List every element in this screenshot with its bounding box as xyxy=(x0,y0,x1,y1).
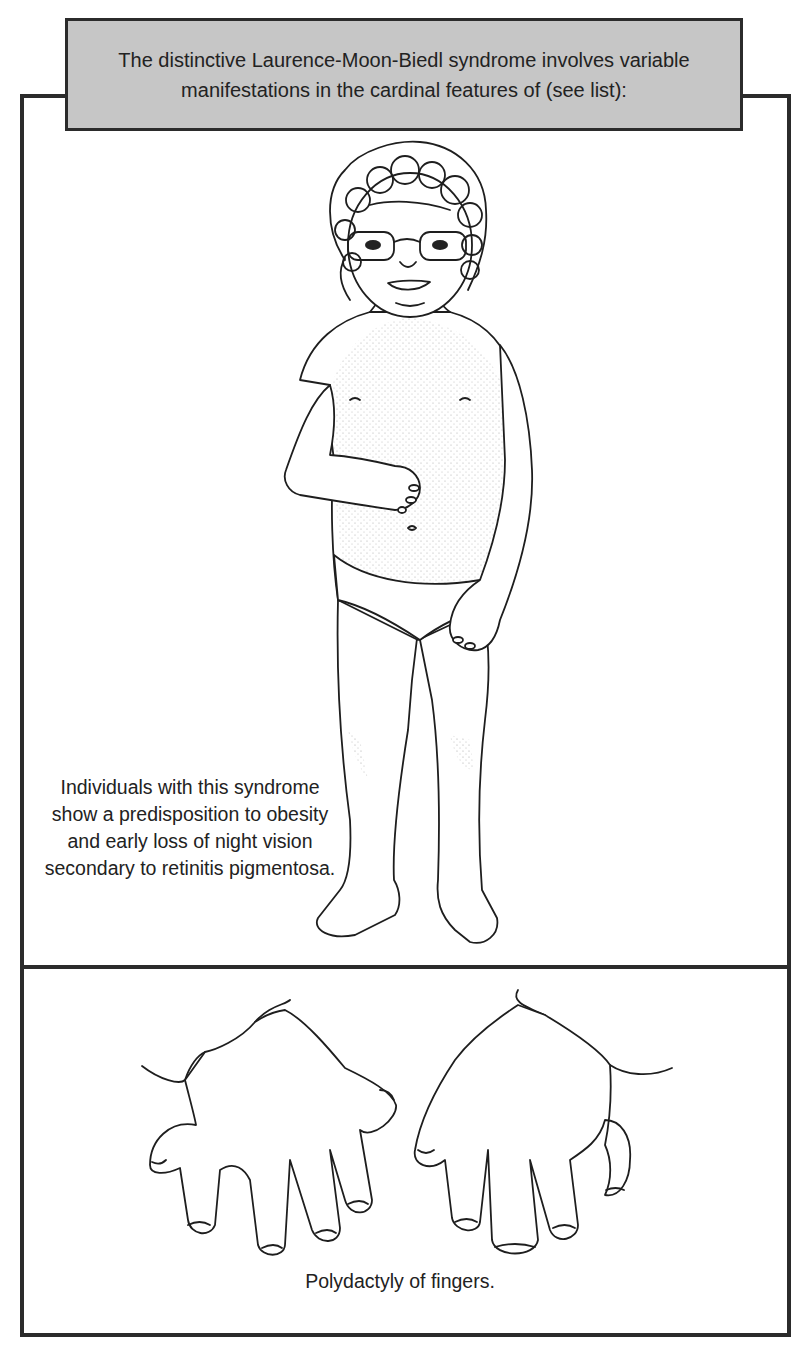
hands-caption-line-1: Polydactyly of fingers. xyxy=(0,1268,800,1295)
hands-caption: Polydactyly of fingers. xyxy=(0,1268,800,1295)
header-callout-box: The distinctive Laurence-Moon-Biedl synd… xyxy=(65,18,743,131)
left-hand-with-extra-finger xyxy=(142,1000,396,1255)
header-text-line-1: The distinctive Laurence-Moon-Biedl synd… xyxy=(118,45,689,75)
hands-illustration xyxy=(0,0,800,1350)
right-hand-with-extra-finger xyxy=(415,990,672,1254)
header-text-line-2: manifestations in the cardinal features … xyxy=(118,75,689,105)
